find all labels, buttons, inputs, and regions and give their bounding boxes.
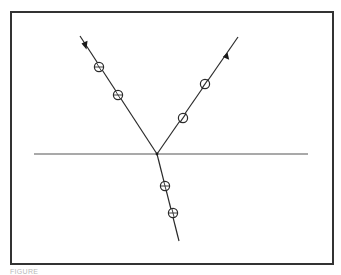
- vertex-point: [156, 153, 159, 156]
- slash-marker: [178, 113, 187, 122]
- crosshair-marker: [160, 181, 169, 190]
- crosshair-marker: [113, 90, 122, 99]
- right-track: [157, 37, 238, 154]
- slash-marker: [200, 79, 209, 88]
- bottom-track: [157, 154, 179, 241]
- crosshair-marker: [168, 208, 177, 217]
- figure-caption: FIGURE: [10, 268, 38, 275]
- diagram-frame: [11, 12, 333, 264]
- crosshair-marker: [94, 62, 103, 71]
- left-track: [80, 36, 157, 154]
